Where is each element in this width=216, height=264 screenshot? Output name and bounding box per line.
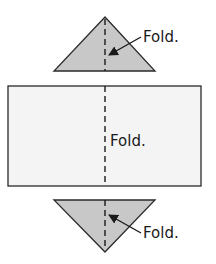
bottom-triangle: Fold. bbox=[54, 200, 179, 252]
rectangle-fold-label: Fold. bbox=[110, 132, 146, 150]
top-fold-label: Fold. bbox=[143, 28, 179, 46]
bottom-fold-label: Fold. bbox=[143, 224, 179, 242]
middle-rectangle: Fold. bbox=[8, 86, 201, 186]
top-triangle: Fold. bbox=[54, 17, 179, 71]
fold-net-diagram: Fold. Fold. Fold. bbox=[0, 0, 216, 264]
